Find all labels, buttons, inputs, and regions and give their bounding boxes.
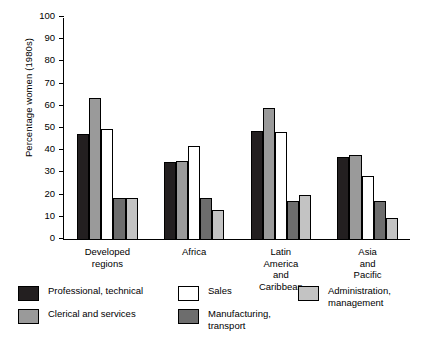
bar — [101, 129, 113, 239]
y-axis-tick: 60 — [59, 105, 64, 106]
y-axis-tick-label: 70 — [44, 77, 55, 88]
bar-group: Africa — [164, 18, 225, 239]
bar — [89, 98, 101, 239]
y-axis-tick-label: 100 — [39, 10, 55, 21]
bar — [287, 201, 299, 239]
legend-column: Administration, management — [298, 285, 391, 315]
x-axis-category-label: Developed regions — [85, 246, 130, 269]
bar — [77, 134, 89, 239]
bar — [212, 210, 224, 239]
legend-swatch-sales — [178, 286, 199, 301]
y-axis-tick: 40 — [59, 149, 64, 150]
y-axis-tick-label: 10 — [44, 210, 55, 221]
y-axis-tick: 90 — [59, 38, 64, 39]
legend-swatch-administration — [298, 286, 319, 301]
bar — [374, 201, 386, 239]
y-axis-tick-label: 30 — [44, 165, 55, 176]
bar — [386, 218, 398, 239]
bar — [337, 157, 349, 239]
legend-item-label: Clerical and services — [48, 308, 136, 320]
bar-group: Developed regions — [77, 18, 138, 239]
bar — [251, 131, 263, 239]
legend-item[interactable]: Manufacturing, transport — [178, 308, 271, 331]
legend-item[interactable]: Professional, technical — [18, 285, 143, 301]
bar — [263, 108, 275, 239]
x-axis-category-label: Asia and Pacific — [352, 246, 382, 281]
bar — [113, 198, 125, 239]
legend-column: Professional, technicalClerical and serv… — [18, 285, 143, 331]
bar-group-bars — [77, 18, 138, 239]
y-axis-tick: 0 — [59, 238, 64, 239]
bar-group-bars — [251, 18, 312, 239]
y-axis-tick: 100 — [59, 16, 64, 17]
bar — [164, 162, 176, 239]
bar — [176, 161, 188, 239]
y-axis-tick-label: 90 — [44, 32, 55, 43]
legend-item[interactable]: Administration, management — [298, 285, 391, 308]
y-axis-tick-label: 0 — [50, 232, 55, 243]
y-axis-tick: 10 — [59, 216, 64, 217]
y-axis-tick: 50 — [59, 127, 64, 128]
y-axis-tick-label: 80 — [44, 54, 55, 65]
legend-column: SalesManufacturing, transport — [178, 285, 271, 338]
x-axis-category-label: Africa — [182, 246, 206, 258]
legend-item-label: Professional, technical — [48, 285, 143, 297]
y-axis-tick-label: 50 — [44, 121, 55, 132]
bar-chart: Percentage women (1980s) 010203040506070… — [0, 0, 421, 343]
legend-item[interactable]: Clerical and services — [18, 308, 143, 324]
bar-group: Asia and Pacific — [337, 18, 398, 239]
legend-swatch-manufacturing — [178, 309, 199, 324]
legend-item[interactable]: Sales — [178, 285, 271, 301]
legend-item-label: Sales — [208, 285, 232, 297]
legend-swatch-professional — [18, 286, 39, 301]
y-axis-tick: 30 — [59, 171, 64, 172]
y-axis-tick: 80 — [59, 60, 64, 61]
bar — [362, 176, 374, 239]
bar — [299, 195, 311, 239]
plot-area: 0102030405060708090100Developed regionsA… — [63, 18, 410, 240]
legend-item-label: Administration, management — [328, 285, 391, 308]
legend-item-label: Manufacturing, transport — [208, 308, 271, 331]
bar — [275, 132, 287, 239]
legend-swatch-clerical — [18, 309, 39, 324]
bar-group-bars — [337, 18, 398, 239]
bar — [349, 155, 361, 239]
y-axis-tick: 70 — [59, 83, 64, 84]
y-axis-tick-label: 60 — [44, 99, 55, 110]
y-axis-title: Percentage women (1980s) — [23, 8, 34, 188]
chart-legend: Professional, technicalClerical and serv… — [0, 285, 421, 343]
y-axis-tick: 20 — [59, 194, 64, 195]
bar — [188, 146, 200, 239]
y-axis-tick-label: 40 — [44, 143, 55, 154]
bar — [126, 198, 138, 239]
bar-group: Latin America and Caribbean — [251, 18, 312, 239]
y-axis-tick-label: 20 — [44, 188, 55, 199]
bar — [200, 198, 212, 239]
bar-group-bars — [164, 18, 225, 239]
